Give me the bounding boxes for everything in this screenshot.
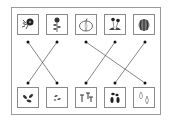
- dandelion-icon: [105, 15, 125, 34]
- dot-bottom-1[interactable]: [27, 82, 30, 85]
- line-top5-bottom4: [115, 42, 145, 83]
- bottom-card-pale-seeds[interactable]: [133, 87, 155, 108]
- dot-bottom-4[interactable]: [114, 82, 117, 85]
- dark-seeds-icon: [105, 88, 125, 107]
- pale-seeds-icon: [134, 88, 154, 107]
- dot-bottom-2[interactable]: [56, 82, 59, 85]
- dot-top-5[interactable]: [144, 41, 147, 44]
- dot-top-1[interactable]: [27, 41, 30, 44]
- seedling-leaves-icon: [18, 88, 38, 107]
- top-card-watermelon[interactable]: [133, 14, 155, 35]
- top-card-morning-glory[interactable]: [17, 14, 39, 35]
- dot-bottom-5[interactable]: [144, 82, 147, 85]
- line-top3-bottom5: [86, 42, 145, 83]
- bottom-card-small-seeds[interactable]: [46, 87, 68, 108]
- dandelion-seeds-icon: [76, 88, 96, 107]
- top-card-sunflower[interactable]: [46, 14, 68, 35]
- bottom-card-dark-seeds[interactable]: [104, 87, 126, 108]
- top-card-dandelion[interactable]: [104, 14, 126, 35]
- dot-top-4[interactable]: [114, 41, 117, 44]
- dot-top-2[interactable]: [56, 41, 59, 44]
- small-seeds-icon: [47, 88, 67, 107]
- dot-bottom-3[interactable]: [85, 82, 88, 85]
- bottom-card-dandelion-seeds[interactable]: [75, 87, 97, 108]
- pumpkin-icon: [76, 15, 96, 34]
- dot-top-3[interactable]: [85, 41, 88, 44]
- top-card-pumpkin[interactable]: [75, 14, 97, 35]
- sunflower-plant-icon: [47, 15, 67, 34]
- line-top4-bottom3: [86, 42, 115, 83]
- morning-glory-icon: [18, 15, 38, 34]
- watermelon-icon: [134, 15, 154, 34]
- bottom-card-seedling[interactable]: [17, 87, 39, 108]
